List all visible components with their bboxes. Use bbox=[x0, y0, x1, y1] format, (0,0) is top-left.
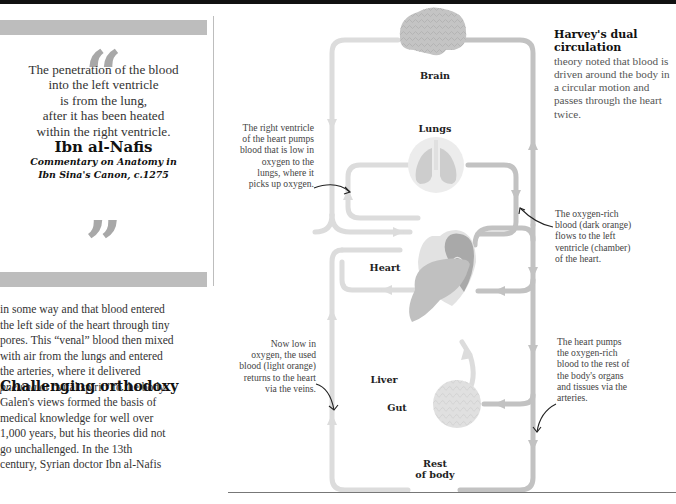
label-rest-of-body: Rest of body bbox=[400, 458, 470, 480]
gut-illustration bbox=[433, 380, 481, 428]
arrow-right-icon bbox=[393, 227, 404, 237]
annotation-right-ventricle: The right ventricle of the heart pumps b… bbox=[224, 122, 314, 189]
annotation-line: of the heart pumps bbox=[224, 133, 314, 144]
arrow-down-icon bbox=[528, 345, 538, 356]
sidebar-title: Harvey's dual circulation bbox=[554, 28, 674, 55]
lungs-illustration bbox=[408, 137, 464, 193]
annotation-oxygen-rich: The oxygen-rich blood (dark orange) flow… bbox=[555, 208, 675, 264]
annotation-line: blood that is low in bbox=[224, 144, 314, 155]
harvey-sidebar: Harvey's dual circulation theory noted t… bbox=[554, 28, 674, 121]
annotation-line: lungs, where it bbox=[224, 167, 314, 178]
annotation-line: the oxygen-rich bbox=[557, 347, 675, 358]
bottom-rule bbox=[228, 492, 676, 493]
annotation-line: blood (dark orange) bbox=[555, 219, 675, 230]
label-liver: Liver bbox=[364, 374, 404, 385]
arrow-down-icon bbox=[528, 267, 538, 278]
annotation-line: oxygen, the used bbox=[224, 349, 316, 360]
annotation-line: The heart pumps bbox=[557, 336, 675, 347]
annotation-line: Now low in bbox=[224, 338, 316, 349]
annotation-line: flows to the left bbox=[555, 230, 675, 241]
label-gut: Gut bbox=[382, 402, 412, 413]
annotation-line: The oxygen-rich bbox=[555, 208, 675, 219]
annotation-line: picks up oxygen. bbox=[224, 178, 314, 189]
label-rest-line: Rest bbox=[400, 458, 470, 469]
brain-illustration bbox=[400, 7, 466, 55]
annotation-line: the body's organs bbox=[557, 370, 675, 381]
label-rest-line: of body bbox=[400, 469, 470, 480]
annotation-line: of the heart. bbox=[555, 253, 675, 264]
arrow-up-icon bbox=[327, 414, 337, 425]
annotation-line: returns to the heart bbox=[224, 372, 316, 383]
annotation-line: and tissues via the bbox=[557, 381, 675, 392]
arrow-down-icon bbox=[528, 440, 538, 451]
arrow-up-icon bbox=[528, 139, 538, 150]
annotation-line: arteries. bbox=[557, 392, 675, 403]
arrow-down-icon bbox=[511, 190, 521, 201]
arrow-left-icon bbox=[494, 286, 505, 296]
sidebar-text: theory noted that blood is driven around… bbox=[554, 55, 670, 120]
annotation-line: via the veins. bbox=[224, 383, 316, 394]
arrow-down-icon bbox=[327, 119, 337, 130]
label-brain: Brain bbox=[400, 70, 470, 81]
label-lungs: Lungs bbox=[400, 123, 470, 134]
arrow-left-icon bbox=[494, 399, 505, 409]
label-heart: Heart bbox=[360, 262, 410, 273]
annotation-line: ventricle (chamber) bbox=[555, 242, 675, 253]
annotation-line: The right ventricle bbox=[224, 122, 314, 133]
arrow-up-icon bbox=[327, 309, 337, 320]
annotation-line: blood (light orange) bbox=[224, 360, 316, 371]
annotation-used-blood: Now low in oxygen, the used blood (light… bbox=[224, 338, 316, 394]
annotation-heart-pumps: The heart pumps the oxygen-rich blood to… bbox=[557, 336, 675, 403]
annotation-line: oxygen to the bbox=[224, 156, 314, 167]
annotation-line: blood to the rest of bbox=[557, 358, 675, 369]
arrow-left-icon bbox=[381, 285, 392, 295]
